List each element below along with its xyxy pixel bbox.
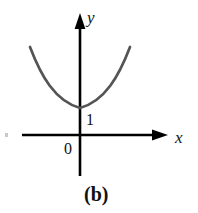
y-axis-arrow-icon	[75, 13, 86, 29]
origin-tick-label: 0	[64, 141, 72, 157]
figure-panel-b: y x 1 0 (b)	[0, 0, 198, 213]
graph-canvas	[0, 0, 198, 213]
panel-caption: (b)	[84, 184, 108, 204]
y-axis-label: y	[87, 9, 95, 26]
y-intercept-tick-label: 1	[86, 112, 94, 128]
x-axis-arrow-icon	[152, 130, 168, 141]
x-axis-label: x	[175, 129, 183, 146]
scan-artifact-speck	[5, 133, 8, 137]
